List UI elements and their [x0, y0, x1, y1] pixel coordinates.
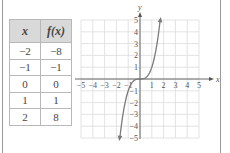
svg-text:4: 4: [134, 28, 138, 37]
svg-text:−2: −2: [129, 99, 138, 108]
svg-text:5: 5: [134, 16, 138, 25]
svg-text:x: x: [215, 75, 220, 84]
svg-text:1: 1: [134, 63, 138, 72]
svg-text:4: 4: [185, 81, 189, 90]
svg-text:y: y: [137, 3, 142, 12]
axes: [75, 12, 214, 139]
svg-text:1: 1: [150, 81, 154, 90]
svg-text:5: 5: [197, 81, 201, 90]
svg-text:−3: −3: [129, 110, 138, 119]
svg-text:2: 2: [134, 51, 138, 60]
tick-labels: xy−5−4−3−2−11234554321−1−2−3−4−5: [77, 3, 220, 143]
svg-text:−4: −4: [89, 81, 98, 90]
svg-text:−2: −2: [112, 81, 121, 90]
graph: xy−5−4−3−2−11234554321−1−2−3−4−5: [0, 0, 230, 153]
svg-text:3: 3: [134, 40, 138, 49]
svg-text:−5: −5: [129, 134, 138, 143]
svg-text:2: 2: [162, 81, 166, 90]
svg-text:−4: −4: [129, 122, 138, 131]
svg-text:−1: −1: [129, 87, 138, 96]
svg-text:−5: −5: [77, 81, 86, 90]
svg-text:−3: −3: [100, 81, 109, 90]
svg-text:3: 3: [173, 81, 177, 90]
